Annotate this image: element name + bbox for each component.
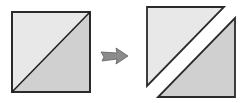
diagram-canvas xyxy=(0,0,248,103)
right-arrow-icon xyxy=(101,48,128,64)
separated-triangles xyxy=(147,7,235,97)
left-square xyxy=(12,12,90,92)
